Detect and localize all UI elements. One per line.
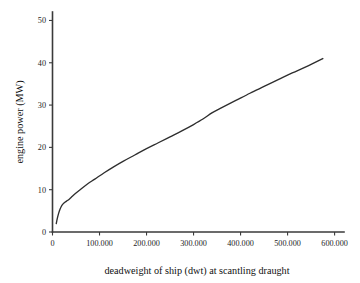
x-axis-tick-label: 500.000 (274, 239, 301, 248)
x-axis-tick-label: 100.000 (86, 239, 113, 248)
data-series-line (56, 59, 323, 224)
y-axis-tick-label: 50 (38, 16, 46, 25)
x-axis-tick-label: 0 (50, 239, 54, 248)
chart-figure: 01020304050 0100.000200.000300.000400.00… (0, 0, 360, 283)
y-axis-tick-label: 40 (38, 59, 46, 68)
x-axis-tick-label: 200.000 (133, 239, 160, 248)
y-axis-tick-label: 20 (38, 143, 46, 152)
y-axis-tick-label: 0 (42, 228, 46, 237)
y-axis-tick-label: 10 (38, 186, 46, 195)
plot-series-group (56, 59, 323, 224)
x-axis-tick-label: 600.000 (321, 239, 348, 248)
y-axis-tick-label: 30 (38, 101, 46, 110)
x-axis-title: deadweight of ship (dwt) at scantling dr… (104, 265, 289, 277)
x-axis-tick-label: 300.000 (180, 239, 207, 248)
y-axis-group: 01020304050 (38, 12, 53, 237)
y-axis-title: engine power (MW) (14, 80, 26, 163)
chart-canvas: 01020304050 0100.000200.000300.000400.00… (0, 0, 360, 283)
x-axis-tick-label: 400.000 (227, 239, 254, 248)
x-axis-tick-labels: 0100.000200.000300.000400.000500.000600.… (50, 239, 347, 248)
y-axis-tick-labels: 01020304050 (38, 16, 46, 237)
x-axis-group: 0100.000200.000300.000400.000500.000600.… (50, 232, 347, 248)
